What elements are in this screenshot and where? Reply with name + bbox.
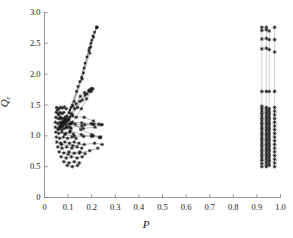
- data-markers: [54, 25, 277, 168]
- y-tick-label: 0.5: [30, 161, 41, 171]
- x-tick-label: 0: [33, 202, 57, 212]
- y-tick-label: 2.5: [30, 38, 41, 48]
- x-tick-label: 0.6: [174, 202, 198, 212]
- x-tick-label: 0.3: [103, 202, 127, 212]
- tick-marks: [45, 13, 281, 198]
- x-tick-label: 0.9: [245, 202, 269, 212]
- x-tick-label: 0.7: [198, 202, 222, 212]
- x-axis-label: P: [0, 218, 292, 230]
- y-tick-label: 2.0: [30, 69, 41, 79]
- y-tick-label: 0: [36, 192, 40, 202]
- y-tick-label: 1.5: [30, 100, 41, 110]
- figure: 00.51.01.52.02.53.000.10.20.30.40.50.60.…: [0, 0, 292, 238]
- y-tick-label: 1.0: [30, 130, 41, 140]
- x-tick-label: 0.2: [80, 202, 104, 212]
- x-tick-label: 0.5: [151, 202, 175, 212]
- y-axis-label: Qr: [0, 79, 12, 125]
- x-tick-label: 1.0: [269, 202, 293, 212]
- axes: [45, 13, 281, 198]
- y-tick-label: 3.0: [30, 7, 41, 17]
- x-tick-label: 0.4: [127, 202, 151, 212]
- x-tick-label: 0.1: [56, 202, 80, 212]
- x-tick-label: 0.8: [221, 202, 245, 212]
